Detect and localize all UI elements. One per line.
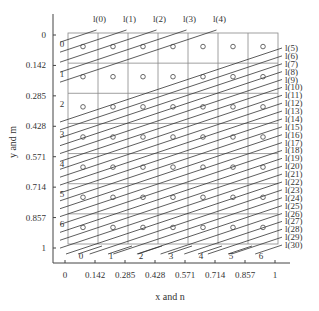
cell-marker-icon <box>81 225 86 230</box>
cell-marker-icon <box>81 165 86 170</box>
row-label: 1 <box>60 69 65 79</box>
line-l-19 <box>60 158 282 232</box>
cell-marker-icon <box>81 74 86 79</box>
cell-marker-icon <box>81 195 86 200</box>
cell-marker-icon <box>111 225 116 230</box>
cell-marker-icon <box>111 105 116 110</box>
parallel-lines <box>60 30 282 254</box>
column-label: 4 <box>199 251 204 261</box>
line-label: l(0) <box>93 14 106 24</box>
cell-marker-icon <box>231 105 236 110</box>
cell-marker-icon <box>111 135 116 140</box>
row-label: 2 <box>60 99 65 109</box>
y-tick-label: 0.142 <box>26 60 46 70</box>
cell-marker-icon <box>261 135 266 140</box>
cell-marker-icon <box>141 135 146 140</box>
line-label: l(4) <box>213 14 226 24</box>
line-l-13 <box>60 111 282 185</box>
column-label: 1 <box>109 251 114 261</box>
figure: 00.1420.2850.4280.5710.7140.857100.1420.… <box>0 0 319 311</box>
column-label: 6 <box>259 251 264 261</box>
line-label: l(30) <box>285 240 303 250</box>
line-l-0 <box>60 30 97 42</box>
line-label: l(2) <box>153 14 166 24</box>
line-l-18 <box>60 150 282 224</box>
cell-marker-icon <box>261 105 266 110</box>
row-label: 3 <box>60 129 65 139</box>
cell-marker-icon <box>231 195 236 200</box>
y-axis-title: y and m <box>7 126 18 158</box>
cell-marker-icon <box>201 105 206 110</box>
x-tick-label: 0.714 <box>205 270 226 280</box>
column-label: 5 <box>229 251 234 261</box>
x-tick-label: 0.571 <box>175 270 195 280</box>
line-l-21 <box>60 174 282 248</box>
cell-marker-icon <box>111 44 116 49</box>
y-tick-label: 0.714 <box>26 182 47 192</box>
row-label: 0 <box>60 39 65 49</box>
line-l-29 <box>232 237 282 254</box>
line-l-14 <box>60 119 282 193</box>
cell-marker-icon <box>111 74 116 79</box>
cell-marker-icon <box>141 74 146 79</box>
cell-marker-icon <box>141 44 146 49</box>
cell-marker-icon <box>171 44 176 49</box>
cell-marker-icon <box>81 105 86 110</box>
line-l-3 <box>60 30 187 72</box>
cell-marker-icon <box>171 74 176 79</box>
cell-marker-icon <box>261 44 266 49</box>
cell-marker-icon <box>201 195 206 200</box>
line-l-6 <box>60 56 282 130</box>
cell-marker-icon <box>201 74 206 79</box>
row-label: 4 <box>60 159 65 169</box>
line-l-5 <box>60 48 282 122</box>
cell-marker-icon <box>171 195 176 200</box>
labels: 01234560123456l(0)l(1)l(2)l(3)l(4)l(5)l(… <box>60 14 303 261</box>
cell-marker-icon <box>171 105 176 110</box>
row-label: 5 <box>60 189 65 199</box>
x-tick-label: 1 <box>273 270 278 280</box>
line-l-2 <box>60 30 157 62</box>
y-tick-label: 0.571 <box>26 152 46 162</box>
row-label: 6 <box>60 219 65 229</box>
y-tick-label: 1 <box>42 243 47 253</box>
line-label: l(3) <box>183 14 196 24</box>
cell-marker-icon <box>201 225 206 230</box>
y-tick-label: 0.428 <box>26 121 47 131</box>
x-axis-title: x and n <box>155 291 184 302</box>
cell-marker-icon <box>231 44 236 49</box>
line-l-28 <box>208 229 282 254</box>
cell-marker-icon <box>171 165 176 170</box>
line-l-9 <box>60 80 282 154</box>
x-tick-label: 0.285 <box>115 270 136 280</box>
cell-marker-icon <box>261 165 266 170</box>
cell-marker-icon <box>231 225 236 230</box>
cell-marker-icon <box>171 135 176 140</box>
column-label: 0 <box>79 251 84 261</box>
y-tick-label: 0 <box>42 30 47 40</box>
cell-marker-icon <box>141 105 146 110</box>
cell-marker-icon <box>81 135 86 140</box>
y-tick-label: 0.285 <box>26 91 47 101</box>
cell-marker-icon <box>231 74 236 79</box>
column-label: 3 <box>169 251 174 261</box>
cell-marker-icon <box>81 44 86 49</box>
cell-marker-icon <box>201 44 206 49</box>
line-l-10 <box>60 87 282 161</box>
column-label: 2 <box>139 251 144 261</box>
x-tick-label: 0.142 <box>85 270 105 280</box>
line-l-26 <box>161 214 282 254</box>
line-l-7 <box>60 64 282 138</box>
cell-marker-icon <box>261 195 266 200</box>
y-tick-label: 0.857 <box>26 213 47 223</box>
x-tick-label: 0 <box>63 270 68 280</box>
x-tick-label: 0.857 <box>235 270 256 280</box>
x-tick-label: 0.428 <box>145 270 166 280</box>
line-label: l(1) <box>123 14 136 24</box>
line-l-27 <box>184 221 282 254</box>
